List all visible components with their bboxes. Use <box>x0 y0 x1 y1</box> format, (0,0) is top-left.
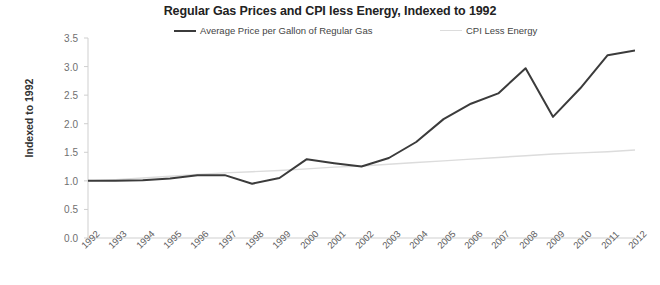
chart-plot-area <box>88 38 635 238</box>
y-axis-tick-label: 1.5 <box>44 147 78 158</box>
y-axis-tick-label: 3.5 <box>44 33 78 44</box>
legend-item-gas[interactable]: Average Price per Gallon of Regular Gas <box>174 25 373 36</box>
legend-label-gas: Average Price per Gallon of Regular Gas <box>200 25 373 36</box>
series-line-cpi <box>88 150 635 181</box>
x-axis-tick-labels: 1992199319941995199619971998199920002001… <box>0 243 660 285</box>
y-axis-tick-label: 0.5 <box>44 204 78 215</box>
y-axis-tick-label: 2.0 <box>44 118 78 129</box>
y-axis-tick-label: 3.0 <box>44 61 78 72</box>
series-line-gas <box>88 51 635 184</box>
legend-line-swatch-gas-icon <box>174 30 196 32</box>
legend-label-cpi: CPI Less Energy <box>466 25 537 36</box>
legend-item-cpi[interactable]: CPI Less Energy <box>440 25 537 36</box>
y-axis-tick-label: 2.5 <box>44 90 78 101</box>
y-axis-tick-label: 0.0 <box>44 233 78 244</box>
y-axis-tick-label: 1.0 <box>44 175 78 186</box>
chart-container: Regular Gas Prices and CPI less Energy, … <box>0 0 660 285</box>
x-axis-tick-label: 1992 <box>79 228 102 251</box>
legend-line-swatch-cpi-icon <box>440 30 462 31</box>
chart-title: Regular Gas Prices and CPI less Energy, … <box>0 4 660 18</box>
y-axis-title: Indexed to 1992 <box>23 43 35 193</box>
